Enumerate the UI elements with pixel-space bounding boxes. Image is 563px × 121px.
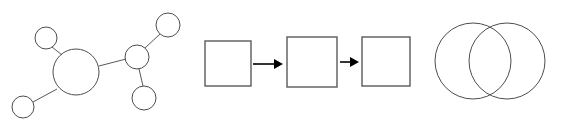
flowchart-svg — [195, 0, 425, 121]
flowchart-box-step-3[interactable] — [362, 37, 410, 86]
venn-circle-left[interactable] — [435, 23, 511, 99]
venn-diagram-figure — [425, 0, 563, 121]
node-hub[interactable] — [53, 49, 99, 95]
venn-diagram-svg — [425, 0, 563, 121]
network-graph-figure — [0, 0, 195, 121]
node-top-right[interactable] — [156, 13, 180, 37]
flowchart-arrow-2 — [340, 57, 359, 67]
flowchart-arrow-1 — [253, 59, 283, 69]
network-graph-svg — [0, 0, 195, 121]
node-bottom-right[interactable] — [132, 86, 156, 110]
flowchart-boxes — [205, 37, 410, 87]
node-top-left[interactable] — [35, 27, 57, 49]
flowchart-box-step-2[interactable] — [287, 37, 337, 87]
node-junction[interactable] — [125, 45, 149, 69]
diagram-canvas — [0, 0, 563, 121]
network-nodes — [12, 13, 180, 118]
flowchart-box-step-1[interactable] — [205, 41, 251, 86]
arrow-1-head — [274, 59, 283, 69]
arrow-2-head — [350, 57, 359, 67]
venn-circle-right[interactable] — [469, 23, 545, 99]
edge-hub-to-junction — [99, 59, 126, 66]
node-bottom-left[interactable] — [12, 96, 34, 118]
flowchart-figure — [195, 0, 425, 121]
edge-bottom-left-to-hub — [33, 89, 57, 102]
edge-junction-to-bottom-right — [139, 69, 143, 86]
edge-junction-to-top-right — [145, 34, 160, 48]
edge-top-left-to-hub — [52, 47, 62, 55]
